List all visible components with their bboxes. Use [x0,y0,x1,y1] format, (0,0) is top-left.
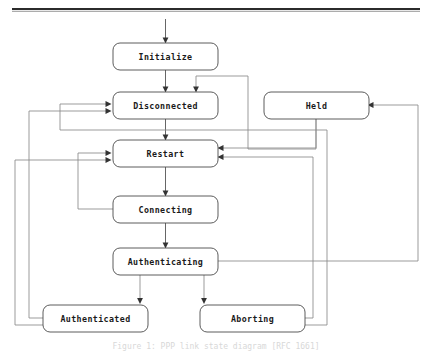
state-node-authenticated[interactable]: Authenticated [43,305,148,332]
arrowhead-disconnected-left-1 [106,101,112,107]
state-node-connecting[interactable]: Connecting [113,196,218,223]
state-label-connecting: Connecting [139,205,193,215]
arrowhead-aborting-top [201,298,207,304]
state-nodes: Initialize Disconnected Held Restart Con… [43,43,369,332]
state-node-aborting[interactable]: Aborting [200,305,305,332]
figure-caption: Figure 1: PPP link state diagram [RFC 16… [112,342,319,351]
arrowhead-authenticated-top [137,298,143,304]
state-label-aborting: Aborting [231,314,274,324]
state-label-initialize: Initialize [139,52,193,62]
state-node-restart[interactable]: Restart [113,140,218,167]
arrowhead-restart-left [106,150,112,156]
state-node-disconnected[interactable]: Disconnected [113,92,218,119]
state-label-disconnected: Disconnected [133,101,198,111]
state-label-restart: Restart [147,149,185,159]
edge-aborting-restart [221,157,313,318]
state-node-initialize[interactable]: Initialize [113,43,218,70]
arrowhead-disconnected-left-2 [106,108,112,114]
edge-authenticated-disconnected [29,111,108,318]
arrowhead-restart-left-2 [106,157,112,163]
top-rule [12,8,420,10]
state-node-held[interactable]: Held [264,92,369,119]
state-diagram: Initialize Disconnected Held Restart Con… [0,0,432,352]
top-rule-thin [12,11,420,12]
state-label-authenticating: Authenticating [128,257,204,267]
state-node-authenticating[interactable]: Authenticating [113,248,218,275]
state-label-authenticated: Authenticated [60,314,130,324]
state-label-held: Held [306,101,328,111]
state-diagram-canvas: Initialize Disconnected Held Restart Con… [0,0,432,352]
edge-held-restart [221,119,316,148]
